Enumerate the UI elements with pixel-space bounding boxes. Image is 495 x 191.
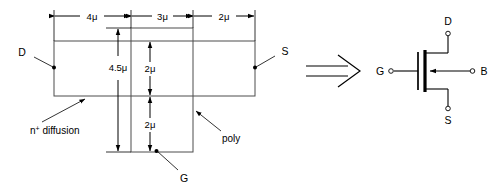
source-contact-dot [253,66,257,70]
leader-line-source [256,56,275,67]
body-terminal-node [470,69,475,74]
figure-root: 4μ 3μ 2μ 4.5μ 2μ 2μ [0,0,495,191]
dim-label-4u: 4μ [87,11,98,22]
mosfet-figure: 4μ 3μ 2μ 4.5μ 2μ 2μ [0,0,495,191]
label-source-symbol: S [444,114,451,126]
leader-line-diffusion [42,99,85,122]
label-poly: poly [222,133,240,144]
label-gate-symbol: G [376,65,384,77]
dim-label-2u-upper: 2μ [145,63,156,74]
leader-line-drain [34,57,53,67]
gate-terminal-node [389,69,394,74]
label-drain-layout: D [18,46,26,58]
leader-line-poly [196,111,221,131]
poly-rect [131,28,193,152]
label-drain-symbol: D [444,15,452,27]
mosfet-symbol: G D S B [376,15,488,126]
gate-contact-dot [155,149,159,153]
diffusion-text: diffusion [40,125,80,136]
label-body-symbol: B [480,65,487,77]
drain-contact-dot [52,66,56,70]
implies-arrow-head [338,55,360,87]
dim-label-2u-top: 2μ [219,11,230,22]
leader-line-gate [157,151,178,170]
label-gate-layout: G [180,172,188,184]
layout-view: 4μ 3μ 2μ 4.5μ 2μ 2μ [18,10,288,184]
implies-arrow [306,55,360,87]
source-terminal-node [446,106,451,111]
label-n-plus-diffusion: n+ diffusion [30,125,80,137]
dim-label-2u-lower: 2μ [145,119,156,130]
dim-label-4-5u: 4.5μ [109,62,128,73]
label-source-layout: S [281,45,288,57]
dim-label-3u: 3μ [157,11,168,22]
drain-terminal-node [446,31,451,36]
